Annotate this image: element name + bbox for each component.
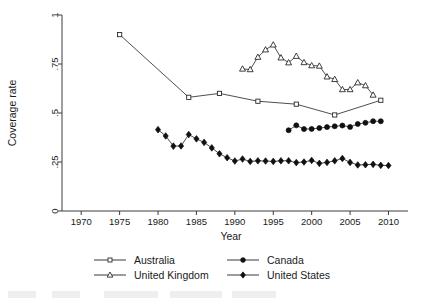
y-tick-label: .25 [49,155,60,168]
marker-filled-circle [286,128,291,133]
marker-filled-circle [241,258,246,263]
marker-filled-circle [317,126,322,131]
legend-label: Australia [134,254,175,266]
x-axis-title: Year [220,230,242,242]
marker-open-square [217,91,221,95]
marker-open-square [379,98,383,102]
y-tick-label: 0 [49,208,60,213]
legend-label: Canada [267,254,304,266]
x-tick-label: 2010 [378,216,399,227]
y-tick-label: 1 [49,12,60,17]
marker-filled-circle [363,120,368,125]
y-tick-label: .5 [49,109,60,117]
marker-filled-circle [378,119,383,124]
marker-open-square [294,102,298,106]
marker-filled-circle [340,123,345,128]
x-tick-label: 1975 [109,216,130,227]
marker-open-square [118,33,122,37]
marker-filled-circle [332,124,337,129]
marker-open-square [187,95,191,99]
x-tick-label: 1995 [263,216,284,227]
x-tick-label: 2000 [301,216,322,227]
y-tick-label: .75 [49,57,60,70]
x-tick-label: 1990 [224,216,245,227]
legend-label: United States [267,269,330,281]
marker-filled-circle [325,125,330,130]
marker-filled-circle [294,123,299,128]
marker-open-square [333,113,337,117]
marker-filled-circle [301,127,306,132]
x-tick-label: 1980 [147,216,168,227]
x-tick-label: 1970 [71,216,92,227]
y-axis-title: Coverage rate [6,80,18,147]
x-tick-label: 1985 [186,216,207,227]
marker-filled-circle [309,126,314,131]
marker-open-square [256,99,260,103]
marker-open-square [108,258,112,262]
marker-filled-circle [348,124,353,129]
marker-filled-circle [355,121,360,126]
marker-filled-circle [371,119,376,124]
x-tick-label: 2005 [339,216,360,227]
legend-label: United Kingdom [134,269,209,281]
coverage-rate-line-chart: 0.25.5.751197019751980198519901995200020… [0,0,423,298]
